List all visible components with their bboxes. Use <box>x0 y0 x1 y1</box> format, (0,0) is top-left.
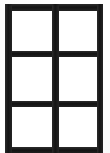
grid-cell-r3c1 <box>11 107 53 147</box>
grid-cell-r1c1 <box>11 10 53 52</box>
image-canvas <box>0 0 110 153</box>
grid-frame <box>5 4 103 153</box>
grid-border-right <box>97 4 103 153</box>
grid-border-left <box>5 4 12 153</box>
grid-cell-r3c2 <box>59 107 97 147</box>
grid-cell-r2c1 <box>11 58 53 101</box>
grid-divider-vertical-1 <box>52 4 59 153</box>
grid-cell-r2c2 <box>59 58 97 101</box>
grid-cell-r1c2 <box>59 10 97 52</box>
